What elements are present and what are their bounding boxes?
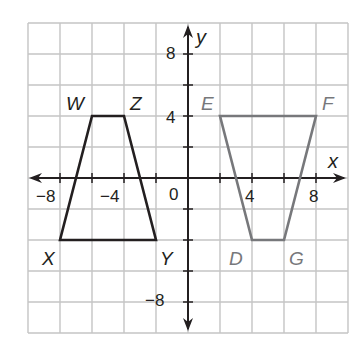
y-tick-label-4: 4 bbox=[166, 108, 175, 127]
y-axis-label: y bbox=[194, 26, 207, 48]
origin-label: 0 bbox=[169, 185, 178, 204]
x-axis-label: x bbox=[327, 150, 339, 172]
vertex-label-G: G bbox=[289, 248, 304, 269]
coordinate-plane: y x 0 −8 −4 4 8 8 4 −8 W Z X Y E F D G bbox=[0, 0, 360, 352]
vertex-label-D: D bbox=[229, 248, 243, 269]
x-tick-label-8: 8 bbox=[309, 187, 318, 206]
vertex-label-Z: Z bbox=[129, 93, 143, 114]
vertex-label-E: E bbox=[201, 93, 214, 114]
x-tick-label-neg4: −4 bbox=[100, 187, 119, 206]
y-tick-label-neg8: −8 bbox=[145, 291, 164, 310]
x-tick-label-neg8: −8 bbox=[36, 187, 55, 206]
vertex-label-W: W bbox=[66, 93, 86, 114]
vertex-label-Y: Y bbox=[160, 248, 174, 269]
vertex-label-F: F bbox=[322, 93, 335, 114]
y-tick-label-8: 8 bbox=[166, 44, 175, 63]
vertex-label-X: X bbox=[41, 248, 56, 269]
x-tick-label-4: 4 bbox=[245, 187, 254, 206]
